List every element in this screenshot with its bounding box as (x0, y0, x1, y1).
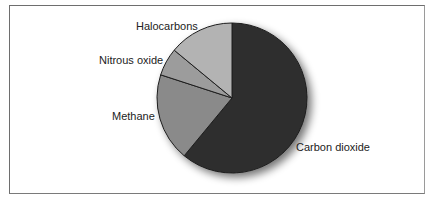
pie-chart: Carbon dioxide Methane Nitrous oxide Hal… (0, 0, 434, 204)
label-nitrous-oxide: Nitrous oxide (99, 54, 163, 66)
label-methane: Methane (112, 110, 155, 122)
label-halocarbons: Halocarbons (136, 20, 198, 32)
label-carbon-dioxide: Carbon dioxide (296, 141, 370, 153)
